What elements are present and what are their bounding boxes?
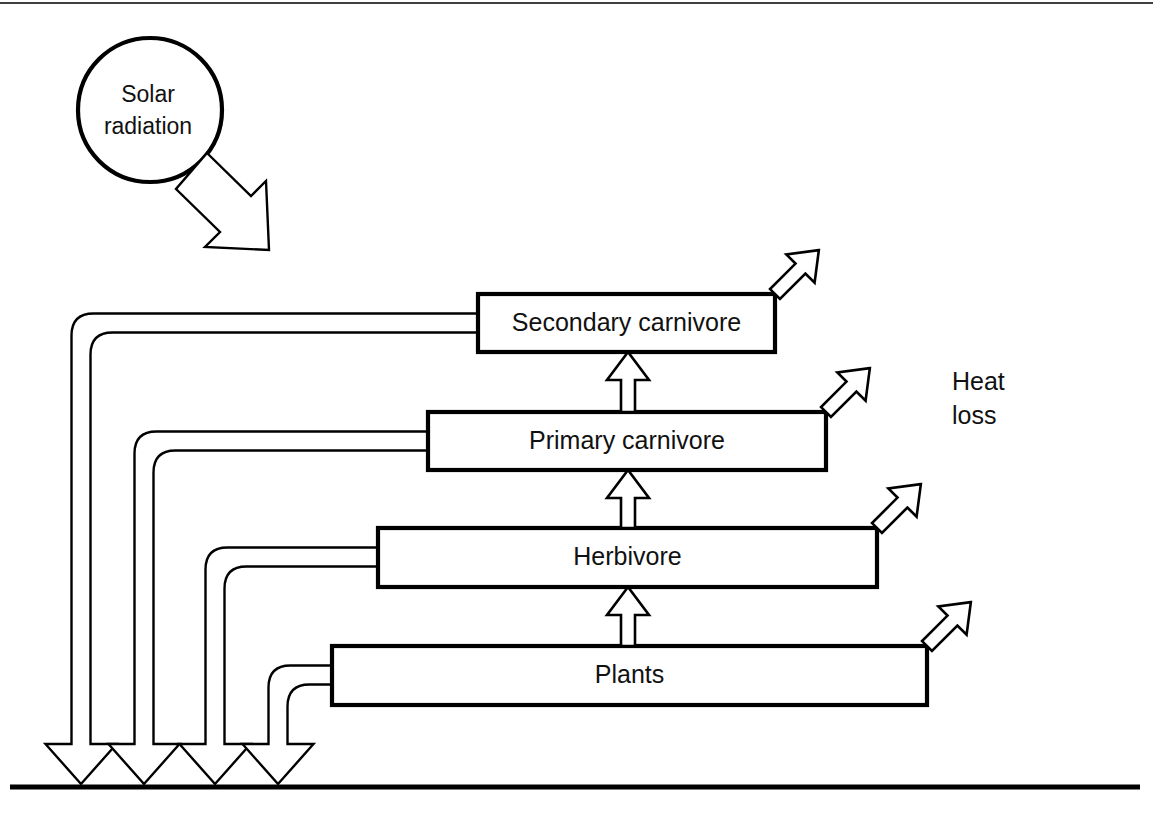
solar-radiation-label-line1: Solar [121,81,175,107]
heat-loss-arrow-primary-carnivore [821,368,870,417]
decomposer-pipe-plants [243,666,333,785]
solar-radiation-group: Solar radiation [78,38,269,250]
heat-loss-label-line1: Heat [952,367,1005,395]
energy-transfer-arrow-plants-to-herbivore [607,587,649,646]
energy-transfer-arrow-herbivore-to-primary-carnivore [607,470,649,528]
trophic-box-label-secondary-carnivore: Secondary carnivore [512,308,741,336]
heat-loss-label-line2: loss [952,401,996,429]
trophic-box-secondary-carnivore[interactable]: Secondary carnivore [478,294,775,352]
energy-transfer-arrow-primary-carnivore-to-secondary-carnivore [607,352,649,412]
solar-radiation-label-line2: radiation [104,113,192,139]
heat-loss-arrow-secondary-carnivore [770,250,819,299]
trophic-box-label-plants: Plants [595,660,664,688]
heat-loss-arrow-herbivore [872,484,921,533]
energy-transfer-group [607,352,649,646]
trophic-box-label-herbivore: Herbivore [573,542,681,570]
trophic-box-herbivore[interactable]: Herbivore [378,528,877,587]
heat-loss-arrow-plants [922,602,971,651]
trophic-box-primary-carnivore[interactable]: Primary carnivore [428,412,826,470]
energy-flow-diagram: Secondary carnivorePrimary carnivoreHerb… [0,0,1153,817]
diagram-canvas: Secondary carnivorePrimary carnivoreHerb… [0,0,1153,817]
trophic-box-label-primary-carnivore: Primary carnivore [529,426,725,454]
trophic-box-plants[interactable]: Plants [332,646,927,705]
